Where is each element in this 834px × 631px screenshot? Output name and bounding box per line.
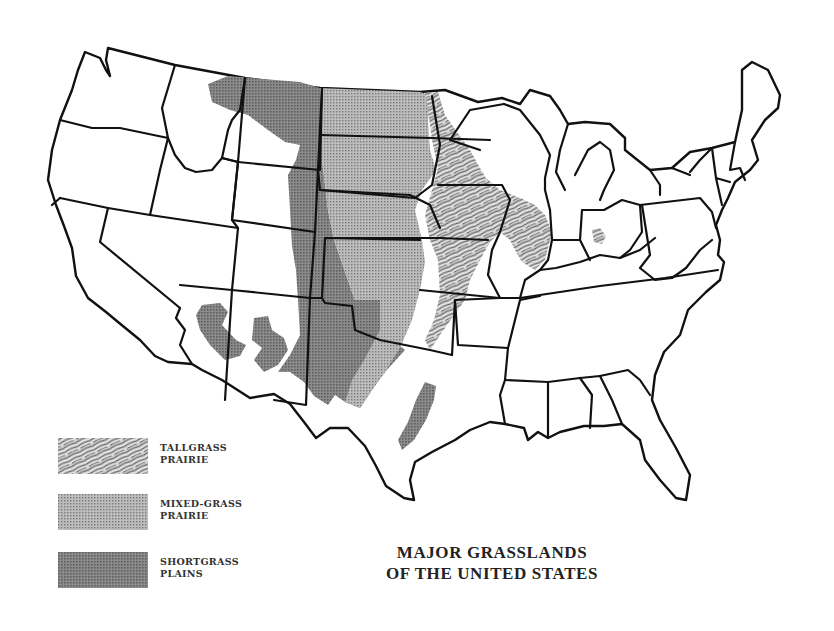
map-title-line1: MAJOR GRASSLANDS [352, 542, 632, 563]
legend-mixedgrass: MIXED-GRASS PRAIRIE [58, 494, 278, 534]
map-title: MAJOR GRASSLANDS OF THE UNITED STATES [352, 542, 632, 584]
shortgrass-swatch [58, 552, 148, 588]
legend-mixedgrass-line2: PRAIRIE [160, 510, 242, 522]
legend-tallgrass: TALLGRASS PRAIRIE [58, 438, 278, 478]
legend-label-shortgrass: SHORTGRASS PLAINS [160, 556, 239, 580]
us-grasslands-map [0, 0, 834, 631]
legend-tallgrass-line2: PRAIRIE [160, 454, 227, 466]
tallgrass-swatch [58, 438, 148, 474]
legend-shortgrass-line1: SHORTGRASS [160, 556, 239, 568]
legend-mixedgrass-line1: MIXED-GRASS [160, 498, 242, 510]
legend-shortgrass: SHORTGRASS PLAINS [58, 552, 278, 592]
legend-label-tallgrass: TALLGRASS PRAIRIE [160, 442, 227, 466]
legend-shortgrass-line2: PLAINS [160, 568, 239, 580]
map-title-line2: OF THE UNITED STATES [352, 563, 632, 584]
mixedgrass-swatch [58, 494, 148, 530]
legend-tallgrass-line1: TALLGRASS [160, 442, 227, 454]
legend-label-mixedgrass: MIXED-GRASS PRAIRIE [160, 498, 242, 522]
